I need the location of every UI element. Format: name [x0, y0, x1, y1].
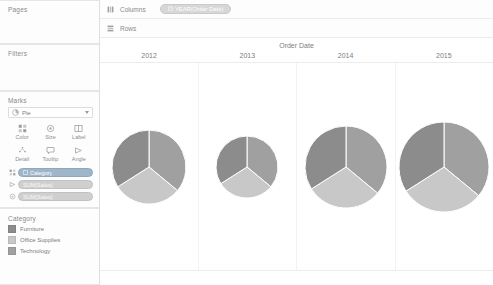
visualization-canvas[interactable]: Order Date 2012 2013 2014 2015 [100, 38, 493, 285]
marks-pill-category[interactable]: Category [18, 168, 93, 177]
marks-pill-sum-sales-angle[interactable]: SUM(Sales) [18, 180, 93, 189]
columns-shelf-label: Columns [120, 6, 154, 13]
column-axis-title: Order Date [100, 38, 493, 48]
marks-button-detail[interactable]: Detail [8, 144, 36, 163]
color-legend-items: Furniture Office Supplies Technology [8, 225, 93, 255]
pie-pane-2013[interactable] [199, 63, 298, 270]
label-icon [73, 123, 84, 133]
columns-icon [106, 5, 114, 13]
filters-card-title: Filters [8, 50, 93, 57]
columns-pill-label: YEAR(Order Date) [175, 6, 223, 12]
rows-shelf-label: Rows [120, 25, 154, 32]
legend-item-technology-label: Technology [20, 248, 50, 254]
rows-icon [106, 24, 114, 32]
color-icon [17, 123, 28, 133]
marks-button-label-label: Label [72, 134, 85, 140]
marks-button-angle[interactable]: Angle [65, 144, 93, 163]
legend-item-furniture[interactable]: Furniture [8, 225, 93, 233]
detail-icon [17, 145, 28, 155]
pie-chart-2013[interactable] [214, 134, 280, 200]
marks-button-tooltip-label: Tooltip [43, 156, 59, 162]
marks-card-title: Marks [8, 97, 93, 104]
rows-shelf[interactable]: Rows [100, 19, 493, 38]
column-headers: 2012 2013 2014 2015 [100, 48, 493, 63]
tableau-worksheet: Pages Filters Marks Pie Color [0, 0, 493, 285]
legend-swatch-furniture [8, 225, 16, 233]
tooltip-icon [45, 145, 56, 155]
size-icon [45, 123, 56, 133]
legend-swatch-office-supplies [8, 236, 16, 244]
pie-icon [12, 109, 19, 117]
filters-card[interactable]: Filters [0, 44, 99, 91]
pages-card-title: Pages [8, 6, 93, 13]
legend-item-office-supplies[interactable]: Office Supplies [8, 236, 93, 244]
marks-pill-row-angle: SUM(Sales) [8, 180, 93, 189]
marks-pill-row-size: SUM(Sales) [8, 192, 93, 201]
legend-item-office-supplies-label: Office Supplies [20, 237, 60, 243]
marks-pill-sum-sales-size[interactable]: SUM(Sales) [18, 192, 93, 201]
chevron-down-icon [85, 111, 89, 114]
angle-icon [8, 181, 16, 189]
pie-chart-2012[interactable] [110, 128, 188, 206]
pie-panes [100, 63, 493, 270]
column-header-2014[interactable]: 2014 [297, 48, 395, 62]
color-icon [8, 169, 16, 177]
date-icon [168, 6, 173, 12]
legend-item-technology[interactable]: Technology [8, 247, 93, 255]
marks-button-size-label: Size [45, 134, 56, 140]
marks-encoding-grid: Color Size Label [8, 122, 93, 163]
marks-button-color[interactable]: Color [8, 122, 36, 141]
pie-pane-2015[interactable] [396, 63, 493, 270]
marks-pill-sum-sales-angle-label: SUM(Sales) [23, 182, 53, 188]
pie-chart-2014[interactable] [303, 124, 389, 210]
marks-button-tooltip[interactable]: Tooltip [36, 144, 64, 163]
pie-chart-2015[interactable] [397, 120, 491, 214]
viz-footer [100, 270, 493, 285]
marks-card: Marks Pie Color [0, 91, 99, 208]
dimension-icon [23, 170, 28, 176]
main-area: Columns YEAR(Order Date) Rows Order Date… [100, 0, 493, 285]
mark-type-value: Pie [22, 110, 82, 116]
sidebar: Pages Filters Marks Pie Color [0, 0, 100, 285]
marks-button-label[interactable]: Label [65, 122, 93, 141]
mark-type-dropdown[interactable]: Pie [8, 107, 93, 118]
columns-pill-year-order-date[interactable]: YEAR(Order Date) [160, 4, 231, 14]
legend-swatch-technology [8, 247, 16, 255]
size-icon [8, 193, 16, 201]
marks-button-color-label: Color [16, 134, 29, 140]
columns-shelf[interactable]: Columns YEAR(Order Date) [100, 0, 493, 19]
marks-button-size[interactable]: Size [36, 122, 64, 141]
color-legend: Category Furniture Office Supplies Techn… [0, 208, 99, 285]
marks-pill-row-color: Category [8, 168, 93, 177]
marks-button-detail-label: Detail [15, 156, 29, 162]
column-header-2012[interactable]: 2012 [100, 48, 198, 62]
angle-icon [73, 145, 84, 155]
pie-pane-2012[interactable] [100, 63, 199, 270]
pie-pane-2014[interactable] [297, 63, 396, 270]
column-header-2015[interactable]: 2015 [395, 48, 493, 62]
color-legend-title: Category [8, 215, 93, 222]
legend-item-furniture-label: Furniture [20, 226, 44, 232]
marks-button-angle-label: Angle [72, 156, 86, 162]
column-header-2013[interactable]: 2013 [198, 48, 296, 62]
pages-card[interactable]: Pages [0, 0, 99, 44]
marks-pill-list: Category SUM(Sales) SUM( [8, 168, 93, 201]
marks-pill-category-label: Category [30, 170, 52, 176]
marks-pill-sum-sales-size-label: SUM(Sales) [23, 194, 53, 200]
